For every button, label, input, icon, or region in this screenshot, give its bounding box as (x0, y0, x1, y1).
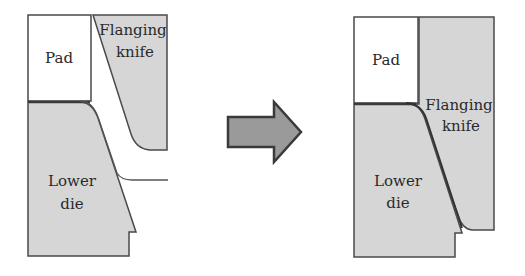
die-label-after-line1: Lower (374, 172, 423, 190)
knife-label-after-line2: knife (442, 117, 480, 135)
pad-label-after: Pad (372, 51, 400, 69)
knife-label-after-line1: Flanging (425, 96, 493, 114)
pad-label-before: Pad (45, 49, 73, 67)
die-label-before-line1: Lower (48, 172, 97, 190)
knife-label-before-line1: Flanging (99, 21, 167, 39)
knife-label-before-line2: knife (116, 43, 154, 61)
right-arrow-icon (228, 102, 301, 162)
after-state: Pad Flanging knife Lower die (354, 17, 494, 257)
flanging-process-diagram: Pad Flanging knife Lower die Pad Flangin… (0, 0, 525, 276)
die-label-after-line2: die (386, 194, 409, 212)
die-label-before-line2: die (60, 195, 83, 213)
before-state: Pad Flanging knife Lower die (28, 15, 168, 256)
